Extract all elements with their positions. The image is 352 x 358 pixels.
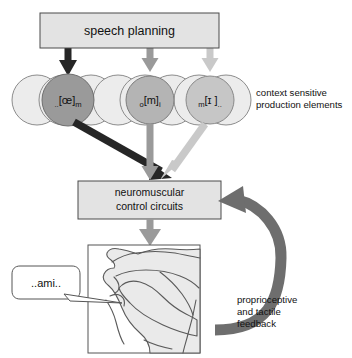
elements-to-control-arrows <box>74 122 205 180</box>
control-box-line2: control circuits <box>116 200 183 212</box>
planning-arrow-dark <box>59 47 77 76</box>
production-element-3[interactable]: m[ɪ ].. <box>186 76 234 124</box>
neuromuscular-control-box: neuromuscular control circuits <box>78 181 221 219</box>
feedback-label: proprioceptive and tactile feedback <box>237 294 297 329</box>
diagram-canvas: speech planning ..[œ]m o[m]i <box>0 0 352 358</box>
speech-planning-box: speech planning <box>40 13 219 48</box>
feedback-line1: proprioceptive <box>237 294 297 305</box>
control-to-tract-arrow <box>139 219 161 246</box>
element-arrow-light <box>160 124 205 180</box>
context-sensitive-line1: context sensitive <box>256 87 327 98</box>
control-box-line1: neuromuscular <box>115 186 185 198</box>
speech-planning-label: speech planning <box>84 24 175 38</box>
context-sensitive-line2: production elements <box>256 99 343 110</box>
context-sensitive-label: context sensitive production elements <box>256 87 343 110</box>
production-element-2[interactable]: o[m]i <box>126 76 174 124</box>
planning-arrow-light <box>202 47 219 72</box>
speech-bubble-text: ..ami.. <box>31 277 61 289</box>
planning-to-elements-arrows <box>59 47 219 76</box>
planning-arrow-mid <box>142 47 159 72</box>
production-element-1[interactable]: ..[œ]m <box>42 74 94 126</box>
speech-production-diagram: speech planning ..[œ]m o[m]i <box>0 0 352 358</box>
vocal-tract-panel <box>88 245 200 353</box>
element-arrow-dark <box>74 122 172 180</box>
feedback-line2: and tactile <box>237 306 281 317</box>
feedback-line3: feedback <box>237 318 276 329</box>
